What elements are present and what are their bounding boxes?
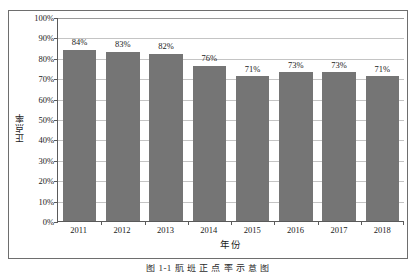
x-axis-tick-label: 2015 xyxy=(231,226,274,235)
x-axis-tick-mark xyxy=(318,221,319,225)
bar-slot: 84% xyxy=(58,18,101,221)
bars-layer: 84%83%82%76%71%73%73%71% xyxy=(58,18,404,221)
y-axis-tick-label: 20% xyxy=(22,177,54,186)
bar[interactable] xyxy=(193,66,227,221)
y-axis-tick-label: 40% xyxy=(22,136,54,145)
y-axis-tick-label: 50% xyxy=(22,116,54,125)
x-axis-tick-mark xyxy=(231,221,232,225)
bar-value-label: 71% xyxy=(231,65,274,74)
bar-slot: 82% xyxy=(145,18,188,221)
figure-container: 正点率 0%10%20%30%40%50%60%70%80%90%100% 84… xyxy=(0,0,416,273)
x-axis-tick-mark xyxy=(403,221,404,225)
y-axis-tick-label: 70% xyxy=(22,75,54,84)
bar-slot: 71% xyxy=(231,18,274,221)
x-axis-tick-label: 2016 xyxy=(274,226,317,235)
x-axis-tick-label-group: 20112012201320142015201620172018 xyxy=(57,226,404,240)
bar-value-label: 73% xyxy=(274,61,317,70)
bar-slot: 73% xyxy=(274,18,317,221)
y-axis-tick-label: 80% xyxy=(22,55,54,64)
x-axis-tick-label: 2014 xyxy=(187,226,230,235)
x-axis-tick-mark xyxy=(145,221,146,225)
x-axis-tick-mark xyxy=(188,221,189,225)
x-axis-tick-mark xyxy=(361,221,362,225)
bar-value-label: 76% xyxy=(188,54,231,63)
bar[interactable] xyxy=(63,50,97,221)
y-axis-tick-label: 100% xyxy=(22,14,54,23)
bar[interactable] xyxy=(149,54,183,221)
y-axis-tick-label: 30% xyxy=(22,157,54,166)
bar[interactable] xyxy=(279,72,313,221)
y-axis-tick-label: 60% xyxy=(22,95,54,104)
y-axis-tick-label: 90% xyxy=(22,34,54,43)
bar-slot: 76% xyxy=(188,18,231,221)
x-axis-tick-mark xyxy=(274,221,275,225)
figure-caption: 图 1-1 航 班 正 点 率 示 意 图 xyxy=(0,264,416,273)
bar-value-label: 83% xyxy=(101,40,144,49)
x-axis-tick-label: 2012 xyxy=(100,226,143,235)
x-axis-tick-label: 2013 xyxy=(144,226,187,235)
y-axis-tick-label: 10% xyxy=(22,197,54,206)
bar-value-label: 73% xyxy=(318,61,361,70)
y-axis-tick-label-group: 0%10%20%30%40%50%60%70%80%90%100% xyxy=(22,18,54,222)
bar[interactable] xyxy=(322,72,356,221)
plot-area: 84%83%82%76%71%73%73%71% xyxy=(57,18,404,222)
bar-value-label: 84% xyxy=(58,38,101,47)
bar-value-label: 82% xyxy=(145,42,188,51)
y-axis-tick-mark xyxy=(54,222,58,223)
x-axis-tick-label: 2017 xyxy=(317,226,360,235)
x-axis-tick-mark xyxy=(101,221,102,225)
bar[interactable] xyxy=(106,52,140,221)
x-axis-title: 年份 xyxy=(57,241,404,251)
bar[interactable] xyxy=(366,76,400,221)
bar-slot: 71% xyxy=(361,18,404,221)
bar-slot: 73% xyxy=(318,18,361,221)
bar-value-label: 71% xyxy=(361,65,404,74)
x-axis-tick-label: 2018 xyxy=(361,226,404,235)
bar-slot: 83% xyxy=(101,18,144,221)
y-axis-tick-label: 0% xyxy=(22,218,54,227)
x-axis-tick-label: 2011 xyxy=(57,226,100,235)
bar[interactable] xyxy=(236,76,270,221)
